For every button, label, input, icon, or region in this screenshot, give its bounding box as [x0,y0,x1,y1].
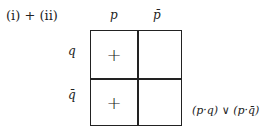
column-label-not-p: p̄ [153,8,161,22]
result-formula: (p·q) ∨ (p·q̄) [192,104,259,117]
row-label-not-q: q̄ [68,88,76,102]
cell-notp-q [138,31,183,78]
column-label-p: p [110,8,118,22]
cell-p-q: + [91,31,137,78]
cell-p-notq: + [91,79,137,125]
cell-notp-notq [138,79,183,125]
row-label-q: q [68,44,76,58]
truth-table-grid: + + [90,30,182,126]
diagram-heading: (i) + (ii) [6,8,58,23]
